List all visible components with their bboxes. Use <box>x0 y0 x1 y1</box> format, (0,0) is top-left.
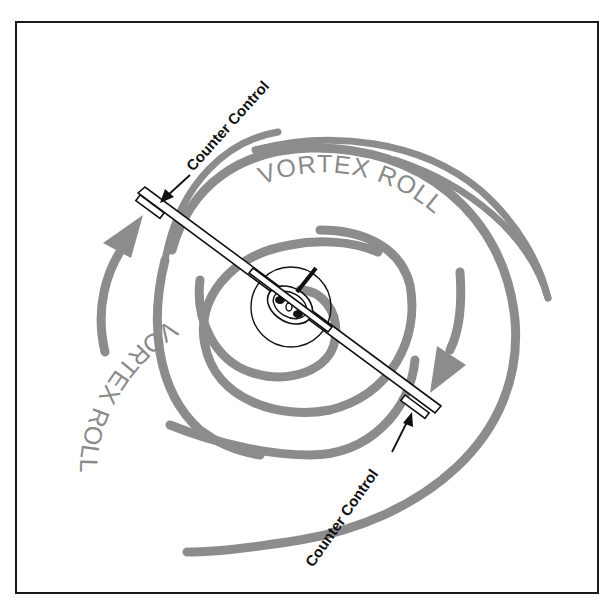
vortex-roll-diagram: VORTEX ROLL VORTEX ROLL Counter Control … <box>0 0 611 604</box>
left-flow-arrowhead <box>103 215 143 258</box>
left-flow-arrow-arc <box>101 240 128 352</box>
vortex-roll-label-left: VORTEX ROLL <box>75 316 183 475</box>
counter-control-arrowhead-bottom <box>403 412 413 427</box>
aircraft <box>136 187 441 418</box>
right-flow-arrow-arc <box>450 272 461 350</box>
inner-swirl-arc <box>199 280 336 377</box>
counter-control-bottom: Counter Control <box>302 412 413 570</box>
vortex-roll-label-top: VORTEX ROLL <box>254 149 450 218</box>
counter-control-arrow-bottom-line <box>392 420 408 452</box>
